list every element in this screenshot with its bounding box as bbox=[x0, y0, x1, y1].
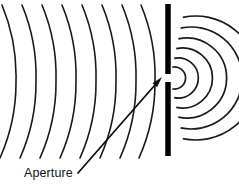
diffraction-figure: Aperture bbox=[0, 0, 239, 189]
incident-wavefront-8 bbox=[139, 5, 155, 158]
incident-wavefront-3 bbox=[40, 5, 56, 158]
diffracted-wavefront-group bbox=[172, 16, 239, 140]
barrier-group bbox=[165, 4, 171, 156]
diagram-canvas bbox=[0, 0, 239, 189]
barrier-lower-segment bbox=[165, 82, 171, 156]
barrier-upper-segment bbox=[165, 4, 171, 74]
diffracted-wavefront-1 bbox=[172, 67, 185, 89]
incident-wavefront-5 bbox=[80, 5, 96, 158]
diffracted-wavefront-5 bbox=[181, 27, 239, 129]
diffracted-wavefront-3 bbox=[176, 48, 212, 108]
incident-wavefront-7 bbox=[120, 5, 136, 158]
incident-wavefront-2 bbox=[20, 5, 36, 158]
diffracted-wavefront-6 bbox=[183, 16, 239, 140]
aperture-label: Aperture bbox=[24, 167, 73, 180]
incident-wavefront-1 bbox=[0, 5, 16, 158]
incident-wavefront-group bbox=[0, 5, 155, 158]
incident-wavefront-6 bbox=[100, 5, 116, 158]
incident-wavefront-4 bbox=[60, 5, 76, 158]
